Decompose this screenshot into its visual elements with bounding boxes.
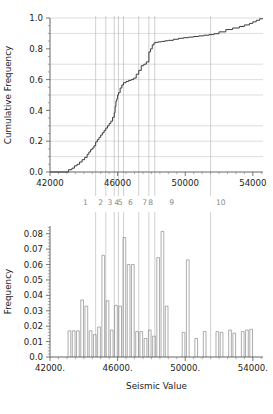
hist-bar [157, 258, 160, 357]
hist-bar [220, 332, 223, 357]
hist-y-tick-label: 0.06 [24, 260, 43, 270]
hist-bar [182, 332, 185, 357]
hist-bar [136, 332, 139, 357]
region-label: 5 [118, 198, 123, 207]
hist-bar [106, 301, 109, 357]
region-label: 9 [169, 198, 174, 207]
hist-axes [46, 226, 263, 361]
hist-y-tick-label: 0.01 [24, 337, 43, 347]
hist-bar [165, 306, 168, 357]
hist-y-tick-label: 0.0 [29, 352, 43, 362]
hist-bar [250, 329, 253, 357]
cdf-x-tick-label: 50000 [172, 178, 199, 188]
hist-bar [127, 265, 130, 357]
hist-bar [115, 305, 118, 357]
hist-y-tick-label: 0.05 [24, 275, 43, 285]
cdf-axes [46, 18, 263, 176]
region-label: 10 [216, 198, 226, 207]
hist-bar [140, 332, 143, 357]
hist-bar [81, 300, 84, 357]
cdf-region-labels: 12345678910 [83, 198, 226, 207]
hist-bar [68, 331, 71, 357]
region-label: 1 [83, 198, 88, 207]
hist-y-axis-label: Frequency [3, 269, 13, 314]
hist-y-tick-label: 0.04 [24, 290, 43, 300]
cdf-x-tick-label: 42000 [36, 178, 63, 188]
hist-bar [161, 231, 164, 357]
figure-container: 0.00.20.40.60.81.042000460005000054000 1… [0, 0, 273, 414]
hist-y-tick-label: 0.07 [24, 244, 43, 254]
hist-y-tick-label: 0.03 [24, 306, 43, 316]
cdf-x-tick-label: 54000 [239, 178, 266, 188]
hist-y-tick-label: 0.02 [24, 321, 43, 331]
region-label: 2 [98, 198, 103, 207]
hist-bar [229, 330, 232, 357]
frequency-histogram-svg: 0.00.010.020.030.040.050.060.070.0842000… [0, 212, 273, 414]
cdf-y-axis-label: Cumulative Frequency [3, 46, 13, 144]
cdf-y-tick-label: 0.2 [29, 136, 43, 146]
hist-x-tick-label: 50000. [170, 363, 200, 373]
cdf-y-tick-label: 0.6 [29, 75, 43, 85]
cumulative-frequency-svg: 0.00.20.40.60.81.042000460005000054000 1… [0, 0, 273, 212]
hist-x-tick-label: 46000. [103, 363, 133, 373]
cdf-y-tick-label: 0.4 [29, 106, 43, 116]
hist-x-tick-label: 42000. [35, 363, 65, 373]
hist-bar [85, 306, 88, 357]
hist-x-axis-label: Seismic Value [126, 381, 187, 391]
hist-bar [216, 332, 219, 357]
hist-bar [89, 331, 92, 357]
hist-x-tick-label: 54000. [238, 363, 268, 373]
hist-bar [119, 306, 122, 357]
region-label: 7 [142, 198, 147, 207]
hist-bar [72, 331, 75, 357]
region-label: 8 [148, 198, 153, 207]
cdf-y-tick-label: 0.8 [29, 44, 43, 54]
hist-bar [233, 333, 236, 357]
hist-bar [102, 255, 105, 357]
cdf-y-tick-label: 1.0 [29, 13, 43, 23]
region-label: 3 [108, 198, 113, 207]
region-label: 6 [128, 198, 133, 207]
cdf-gridlines [50, 18, 263, 157]
cdf-region-dividers [96, 16, 211, 196]
hist-bar [203, 332, 206, 357]
cdf-x-tick-label: 46000 [104, 178, 131, 188]
hist-bar [110, 330, 113, 357]
cdf-y-tick-label: 0.0 [29, 167, 43, 177]
hist-bar [144, 339, 147, 357]
cumulative-frequency-panel: 0.00.20.40.60.81.042000460005000054000 1… [0, 0, 273, 212]
hist-bar [77, 331, 80, 357]
hist-bar [246, 330, 249, 357]
frequency-histogram-panel: 0.00.010.020.030.040.050.060.070.0842000… [0, 212, 273, 414]
hist-bar [195, 339, 198, 357]
hist-y-tick-label: 0.08 [24, 229, 43, 239]
hist-bar [241, 332, 244, 357]
hist-bar [186, 260, 189, 357]
cdf-step-curve [50, 19, 263, 172]
hist-bar [98, 327, 101, 357]
cdf-tick-labels: 0.00.20.40.60.81.042000460005000054000 [29, 13, 266, 188]
hist-bar [131, 265, 134, 357]
